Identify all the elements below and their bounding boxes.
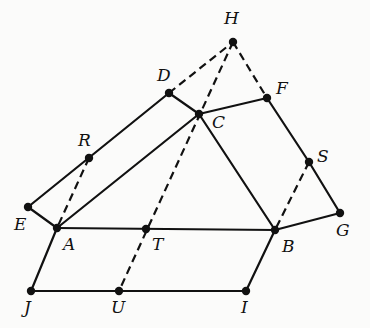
segment-GB [275,213,340,230]
segment-HU [119,42,233,291]
point-T [142,225,150,233]
label-R: R [77,130,91,150]
segment-CB [199,114,275,230]
segment-HF [233,42,267,98]
point-A [53,224,61,232]
segment-AB [57,228,275,230]
point-B [271,226,279,234]
point-F [263,94,271,102]
point-R [85,154,93,162]
label-S: S [317,146,329,166]
label-J: J [21,297,32,317]
point-I [242,287,250,295]
label-E: E [13,214,27,234]
segment-IB [246,230,275,291]
segment-EA [28,207,57,228]
label-I: I [240,297,248,317]
segment-ED [28,93,169,207]
segment-CF [199,98,267,114]
segment-AJ [31,228,57,291]
point-G [336,209,344,217]
label-C: C [212,112,225,132]
label-B: B [281,236,295,256]
label-D: D [156,65,171,85]
segment-FS [267,98,309,162]
point-E [24,203,32,211]
point-S [305,158,313,166]
label-A: A [61,234,75,254]
point-H [229,38,237,46]
label-H: H [223,8,240,28]
point-C [195,110,203,118]
point-J [27,287,35,295]
point-U [115,287,123,295]
geometry-diagram: HDCFRSEATBGJUI [0,0,370,328]
segment-SG [309,162,340,213]
label-T: T [152,234,165,254]
label-F: F [275,78,289,98]
point-D [165,89,173,97]
segment-RA [57,158,89,228]
segment-DH [169,42,233,93]
segment-SB [275,162,309,230]
segment-DC [169,93,199,114]
label-G: G [336,220,350,240]
label-U: U [111,297,126,317]
